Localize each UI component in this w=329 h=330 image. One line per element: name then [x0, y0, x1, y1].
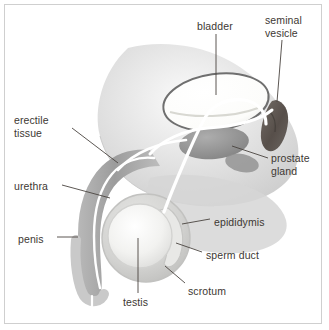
anatomy-diagram-figure: bladderseminal vesicleerectile tissuepro…: [0, 0, 329, 330]
label-prostate-gland: prostate gland: [271, 152, 310, 177]
label-epididymis: epididymis: [214, 216, 265, 229]
label-sperm-duct: sperm duct: [206, 249, 259, 262]
label-erectile-tissue: erectile tissue: [14, 114, 49, 139]
label-testis: testis: [123, 296, 148, 309]
label-urethra: urethra: [14, 180, 48, 193]
testis-organ: [108, 204, 172, 268]
leader-seminal-vesicle: [277, 40, 282, 102]
label-seminal-vesicle: seminal vesicle: [265, 14, 302, 39]
label-penis: penis: [18, 233, 44, 246]
label-scrotum: scrotum: [188, 285, 226, 298]
label-bladder: bladder: [197, 20, 233, 33]
